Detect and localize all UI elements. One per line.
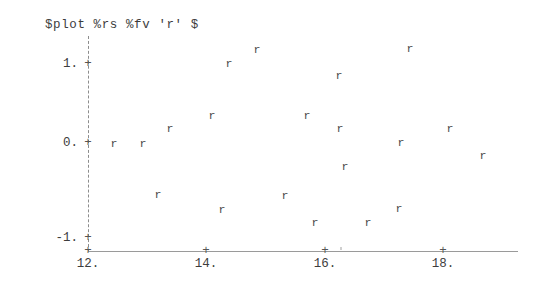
data-point-marker: r xyxy=(396,203,403,214)
data-point-marker: r xyxy=(304,110,311,121)
plot-window: $plot %rs %fv 'r' $ 1.+0.+-1.+ +12.+14.+… xyxy=(0,0,533,281)
data-point-marker: r xyxy=(365,217,372,228)
x-axis-label-2: 16. xyxy=(314,258,337,270)
y-axis-label-1: 0. xyxy=(63,137,78,149)
data-point-marker: r xyxy=(342,161,349,172)
y-axis-label-2: -1. xyxy=(55,232,78,244)
x-axis-label-0: 12. xyxy=(77,258,100,270)
data-point-marker: r xyxy=(480,150,487,161)
x-axis-label-1: 14. xyxy=(195,258,218,270)
data-point-marker: r xyxy=(140,138,147,149)
x-axis-tick-0: + xyxy=(84,245,92,257)
data-point-marker: r xyxy=(407,43,414,54)
data-point-marker: r xyxy=(226,58,233,69)
y-axis-tick-1: + xyxy=(84,137,92,149)
x-axis-tick-2: + xyxy=(321,245,329,257)
axis-artifact-speck xyxy=(340,247,342,250)
data-point-marker: r xyxy=(254,44,261,55)
y-axis-tick-0: + xyxy=(84,58,92,70)
data-point-marker: r xyxy=(337,123,344,134)
data-point-marker: r xyxy=(209,110,216,121)
data-point-marker: r xyxy=(282,190,289,201)
y-axis-label-0: 1. xyxy=(63,58,78,70)
data-point-marker: r xyxy=(447,123,454,134)
data-point-marker: r xyxy=(398,137,405,148)
x-axis-tick-3: + xyxy=(439,245,447,257)
data-point-marker: r xyxy=(312,217,319,228)
x-axis-label-3: 18. xyxy=(432,258,455,270)
x-axis-tick-1: + xyxy=(202,245,210,257)
data-point-marker: r xyxy=(336,70,343,81)
y-axis-tick-2: + xyxy=(84,232,92,244)
data-point-marker: r xyxy=(155,189,162,200)
plot-canvas: 1.+0.+-1.+ +12.+14.+16.+18. rrrrrrrrrrrr… xyxy=(0,0,533,281)
x-axis-line xyxy=(88,251,518,252)
data-point-marker: r xyxy=(167,123,174,134)
data-point-marker: r xyxy=(219,204,226,215)
data-point-marker: r xyxy=(111,138,118,149)
